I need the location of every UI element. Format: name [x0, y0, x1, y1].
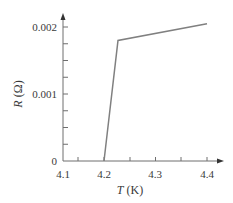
x-axis-title: T (K) [117, 183, 143, 197]
x-tick-label: 4.2 [97, 168, 111, 180]
resistance-curve [104, 24, 207, 161]
x-tick-label: 4.1 [56, 168, 70, 180]
x-tick-label: 4.4 [200, 168, 214, 180]
data-series [104, 24, 207, 161]
y-axis-title: R (Ω) [11, 80, 25, 108]
x-axis-arrow-icon [217, 159, 224, 164]
chart: 4.14.24.34.400.0010.002 T (K) R (Ω) [0, 0, 233, 203]
y-axis-arrow-icon [61, 13, 66, 20]
y-tick-label: 0.002 [32, 21, 57, 33]
tick-labels: 4.14.24.34.400.0010.002 [32, 21, 214, 180]
y-tick-label: 0 [52, 155, 58, 167]
y-tick-label: 0.001 [32, 88, 57, 100]
x-tick-label: 4.3 [148, 168, 162, 180]
